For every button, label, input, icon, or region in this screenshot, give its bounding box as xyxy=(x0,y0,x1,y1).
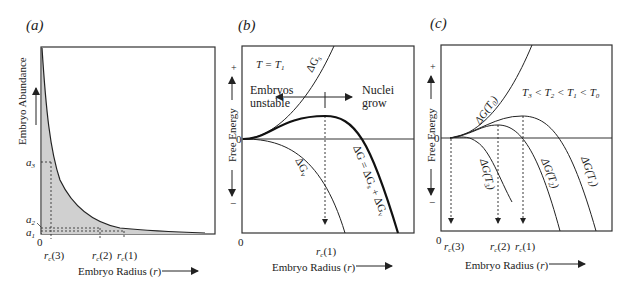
panel-c: (c) ΔG(T0) ΔG(T3) ΔG(T2) ΔG(T1) T3 < T2 … xyxy=(425,15,612,272)
abundance-area xyxy=(42,48,205,234)
tick-rc1: rc(1) xyxy=(515,240,536,254)
condition-label: T3 < T2 < T1 < T0 xyxy=(522,86,600,100)
origin-label: 0 xyxy=(436,234,442,246)
tick-rc2: rc(2) xyxy=(92,249,113,263)
tick-rc1: rc(1) xyxy=(316,245,337,259)
panel-c-xlabel: Embryo Radius (r) xyxy=(465,259,548,272)
note-unstable: unstable xyxy=(250,96,290,110)
tick-rc2: rc(2) xyxy=(490,240,511,254)
panel-a: (a) a3 a2 a1 0 rc(3) rc(2) rc(1) Embryo … xyxy=(16,17,215,278)
nucleation-figure: (a) a3 a2 a1 0 rc(3) rc(2) rc(1) Embryo … xyxy=(0,0,630,287)
tick-rc3: rc(3) xyxy=(444,240,465,254)
panel-a-xlabel: Embryo Radius (r) xyxy=(78,265,161,278)
panel-a-ylabel: Embryo Abundance xyxy=(16,57,28,145)
panel-b-ylabel: Free Energy xyxy=(226,108,238,162)
tick-a1: a1 xyxy=(26,226,35,240)
panel-b-tag: (b) xyxy=(238,17,256,34)
curve-volume-energy xyxy=(243,139,345,233)
plus-sign: + xyxy=(430,61,436,72)
panel-b-xlabel: Embryo Radius (r) xyxy=(272,261,355,274)
minus-sign: − xyxy=(230,197,236,209)
label-dG-T2: ΔG(T2) xyxy=(537,155,562,191)
panel-a-tag: (a) xyxy=(26,17,44,34)
note-grow: grow xyxy=(362,96,387,110)
condition-label: T = T1 xyxy=(256,58,284,72)
tick-a3: a3 xyxy=(26,156,36,170)
panel-c-ylabel: Free Energy xyxy=(425,108,437,162)
note-nuclei: Nuclei xyxy=(362,83,395,97)
curve-dG-T2 xyxy=(450,125,560,231)
note-embryos: Embryos xyxy=(250,83,294,97)
curve-dG-T0 xyxy=(450,45,532,138)
label-dGv: ΔGv xyxy=(291,155,312,178)
tick-rc1: rc(1) xyxy=(117,249,138,263)
minus-sign: − xyxy=(429,196,435,208)
label-dG-T3: ΔG(T3) xyxy=(476,156,498,191)
origin-label: 0 xyxy=(238,236,244,248)
tick-rc3: rc(3) xyxy=(44,249,65,263)
tick-a2: a2 xyxy=(26,213,36,227)
origin-label: 0 xyxy=(37,236,43,248)
panel-c-tag: (c) xyxy=(430,15,447,32)
panel-b: (b) Embryos unstable Nuclei grow T = T1 … xyxy=(226,17,414,274)
label-dG-T0: ΔG(T0) xyxy=(471,93,501,128)
plus-sign: + xyxy=(231,62,237,73)
